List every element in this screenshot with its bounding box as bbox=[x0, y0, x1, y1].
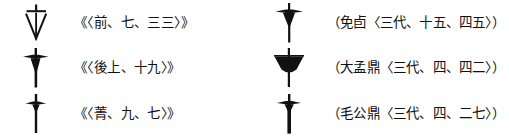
citation-text: 《〈後上、十九〉》 bbox=[72, 60, 255, 75]
glyph-crossbar-with-thick-stem-icon bbox=[255, 90, 323, 137]
glyph-solid-tapered-blade-with-crossbar-icon bbox=[0, 45, 72, 90]
glyph-entry: （免卣〈三代、十五、四五〉） bbox=[255, 0, 509, 45]
glyph-entry: 《〈前、七、三三〉》 bbox=[0, 0, 255, 45]
citation-text: （毛公鼎〈三代、四、二七〉） bbox=[323, 106, 509, 121]
citation-text: （大孟鼎〈三代、四、四二〉） bbox=[323, 60, 509, 75]
citation-text: 《〈前、七、三三〉》 bbox=[72, 15, 255, 30]
glyph-grid: 《〈前、七、三三〉》 （免卣〈三代、十五、四五〉） bbox=[0, 0, 509, 137]
glyph-winged-crossbar-with-solid-blade-icon bbox=[255, 0, 323, 45]
glyph-citation-figure: 《〈前、七、三三〉》 （免卣〈三代、十五、四五〉） bbox=[0, 0, 509, 137]
glyph-entry: 《〈菁、九、七〉》 bbox=[0, 90, 255, 137]
glyph-entry: 《〈後上、十九〉》 bbox=[0, 45, 255, 90]
glyph-slender-cross-with-stem-icon bbox=[0, 90, 72, 137]
glyph-entry: （大孟鼎〈三代、四、四二〉） bbox=[255, 45, 509, 90]
glyph-solid-wide-bowl-with-stem-icon bbox=[255, 45, 323, 90]
citation-text: （免卣〈三代、十五、四五〉） bbox=[323, 15, 509, 30]
citation-text: 《〈菁、九、七〉》 bbox=[72, 106, 255, 121]
glyph-outlined-inverted-triangle-with-stem-icon bbox=[0, 0, 72, 45]
glyph-entry: （毛公鼎〈三代、四、二七〉） bbox=[255, 90, 509, 137]
